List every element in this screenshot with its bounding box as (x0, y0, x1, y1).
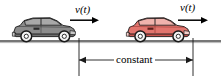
red-car-greenhouse (139, 18, 176, 25)
grey-car-greenhouse (25, 18, 62, 25)
velocity-label-right-text: v(t) (180, 1, 195, 13)
grey-car-front-wheel (59, 31, 70, 42)
grey-car (12, 18, 75, 42)
constant-distance-label-text: constant (116, 53, 153, 65)
physics-figure-two-cars: v(t) v(t) constant (0, 0, 221, 78)
red-car-door-handle (148, 28, 154, 30)
red-car-taillight (126, 32, 129, 36)
constant-distance-label: constant (114, 54, 155, 65)
velocity-label-right: v(t) (180, 2, 195, 13)
road-line (0, 41, 221, 43)
grey-car-rear-wheel (21, 31, 32, 42)
red-car-rear-wheel (135, 31, 146, 42)
red-car-front-wheel (173, 31, 184, 42)
dimension-arrowhead-left-icon (79, 57, 86, 63)
red-car-headlight (184, 31, 189, 35)
grey-car-taillight (12, 32, 15, 36)
velocity-label-left-text: v(t) (75, 3, 90, 15)
velocity-arrow-right-icon (178, 17, 208, 24)
grey-car-headlight (70, 31, 75, 35)
velocity-arrow-left-icon (70, 17, 99, 24)
grey-car-door-handle (34, 28, 40, 30)
red-car (126, 18, 189, 42)
dimension-arrowhead-right-icon (186, 57, 193, 63)
velocity-label-left: v(t) (75, 4, 90, 15)
